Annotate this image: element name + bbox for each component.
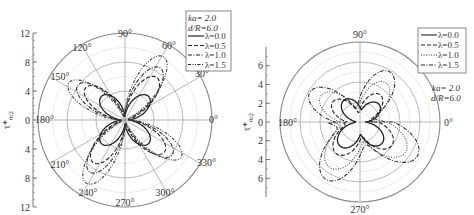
radial-tick-label: 2 [258,98,263,109]
angle-label: 180° [278,117,297,128]
radial-tick-label: 8 [25,57,30,68]
radial-tick-label: 4 [25,144,30,155]
figure: 128404812τ*θr2 0°30°60°90°120°150°180°21… [0,0,474,215]
y-axis-label: τ*θr2 [1,110,15,129]
angle-label: 330° [197,157,216,168]
angle-label: 0° [444,117,453,128]
radial-tick-label: 4 [258,154,263,165]
angle-label: 90° [118,28,132,39]
right-legend: λ=0.0λ=0.5λ=1.0λ=1.5ka= 2.0d/R=6.0 [418,28,466,103]
radial-tick-label: 4 [258,79,263,90]
param-dR: d/R=6.0 [431,93,461,103]
param-ka: ka= 2.0 [188,13,217,23]
legend-label: λ=1.5 [438,60,459,70]
radial-tick-label: 4 [25,86,30,97]
legend-label: λ=0.0 [205,31,226,41]
legend-label: λ=1.0 [205,50,226,60]
radial-tick-label: 0 [258,117,263,128]
y-axis-label: τ*θr2 [241,112,255,131]
radial-tick-label: 6 [258,60,263,71]
radial-tick-label: 0 [25,115,30,126]
radial-tick-label: 2 [258,135,263,146]
legend-label: λ=0.0 [438,30,459,40]
angle-label: 90° [353,29,367,40]
angle-label: 0° [209,114,218,125]
left-polar-chart: 128404812τ*θr2 0°30°60°90°120°150°180°21… [1,11,231,213]
param-ka: ka= 2.0 [432,83,461,93]
radial-tick-label: 6 [258,173,263,184]
angle-label: 60° [162,40,176,51]
angle-label: 210° [51,159,70,170]
angle-label: 180° [35,114,54,125]
angle-label: 120° [73,42,92,53]
angle-label: 300° [156,187,175,198]
legend-label: λ=0.5 [205,41,226,51]
right-radial-axis: 6420246τ*θr2 [241,47,270,197]
right-grid [280,42,440,202]
angle-label: 150° [51,71,70,82]
legend-label: λ=1.0 [438,50,459,60]
legend-label: λ=1.5 [205,60,226,70]
radial-tick-label: 12 [20,28,30,39]
radial-tick-label: 8 [25,173,30,184]
legend-label: λ=0.5 [438,40,459,50]
angle-label: 240° [79,187,98,198]
left-legend: ka= 2.0d/R=6.0λ=0.0λ=0.5λ=1.0λ=1.5 [186,11,231,71]
radial-tick-label: 12 [20,202,30,213]
angle-label: 270° [351,204,370,215]
left-radial-axis: 128404812τ*θr2 [1,28,37,213]
curve-lambda-1.0 [319,81,407,169]
right-polar-chart: 6420246τ*θr2 0°90°180°270° λ=0.0λ=0.5λ=1… [241,28,466,215]
angle-label: 270° [116,197,135,208]
